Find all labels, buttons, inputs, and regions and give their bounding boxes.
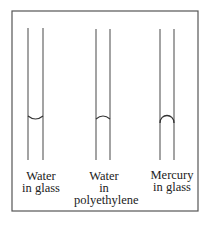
meniscus-convex-strong [160,116,174,124]
meniscus-concave [28,116,43,119]
label-water-in-polyethylene: Water in polyethylene [74,170,134,206]
tube-mercury-in-glass [160,29,174,160]
label-line: polyethylene [74,194,134,206]
label-line: in glass [18,182,64,194]
label-mercury-in-glass: Mercury in glass [148,169,196,193]
meniscus-convex [96,116,110,119]
label-line: in glass [148,181,196,193]
label-water-in-glass: Water in glass [18,170,64,194]
tube-water-in-glass [28,28,43,160]
tube-water-in-polyethylene [96,29,110,160]
